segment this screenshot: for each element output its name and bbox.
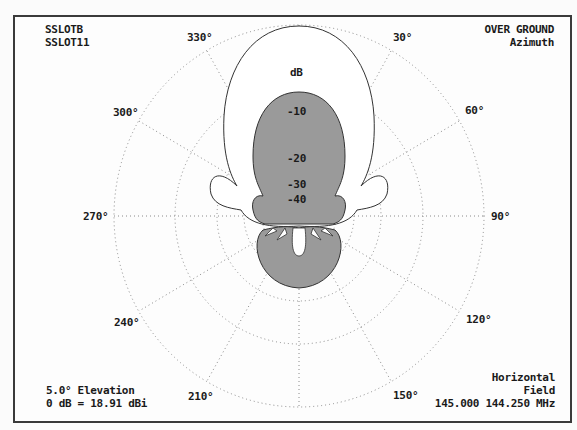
angle-label-150: 150° bbox=[393, 389, 418, 402]
angle-label-300: 300° bbox=[113, 106, 138, 119]
angle-label-240: 240° bbox=[114, 316, 139, 329]
footer-field: Field bbox=[523, 384, 555, 397]
header-right-line1: OVER GROUND bbox=[484, 23, 554, 36]
radial-label-10: -10 bbox=[287, 105, 306, 118]
angle-label-60: 60° bbox=[465, 104, 484, 117]
angle-label-30: 30° bbox=[393, 31, 412, 44]
angle-label-330: 330° bbox=[187, 31, 212, 44]
footer-frequencies: 145.000 144.250 MHz bbox=[435, 397, 555, 410]
radial-label-30: -30 bbox=[287, 178, 306, 191]
header-right-line2: Azimuth bbox=[510, 36, 554, 49]
angle-label-120: 120° bbox=[466, 313, 491, 326]
angle-label-270: 270° bbox=[83, 210, 108, 223]
radial-label-20: -20 bbox=[287, 152, 306, 165]
footer-polarization: Horizontal bbox=[492, 371, 555, 384]
radial-unit-label: dB bbox=[290, 66, 303, 79]
angle-label-210: 210° bbox=[188, 390, 213, 403]
footer-reference: 0 dB = 18.91 dBi bbox=[46, 397, 147, 410]
angle-label-90: 90° bbox=[491, 210, 510, 223]
footer-elevation: 5.0° Elevation bbox=[46, 384, 135, 397]
radial-label-40: -40 bbox=[287, 193, 306, 206]
header-left-line1: SSLOTB bbox=[45, 23, 83, 36]
header-left-line2: SSLOT11 bbox=[45, 36, 89, 49]
